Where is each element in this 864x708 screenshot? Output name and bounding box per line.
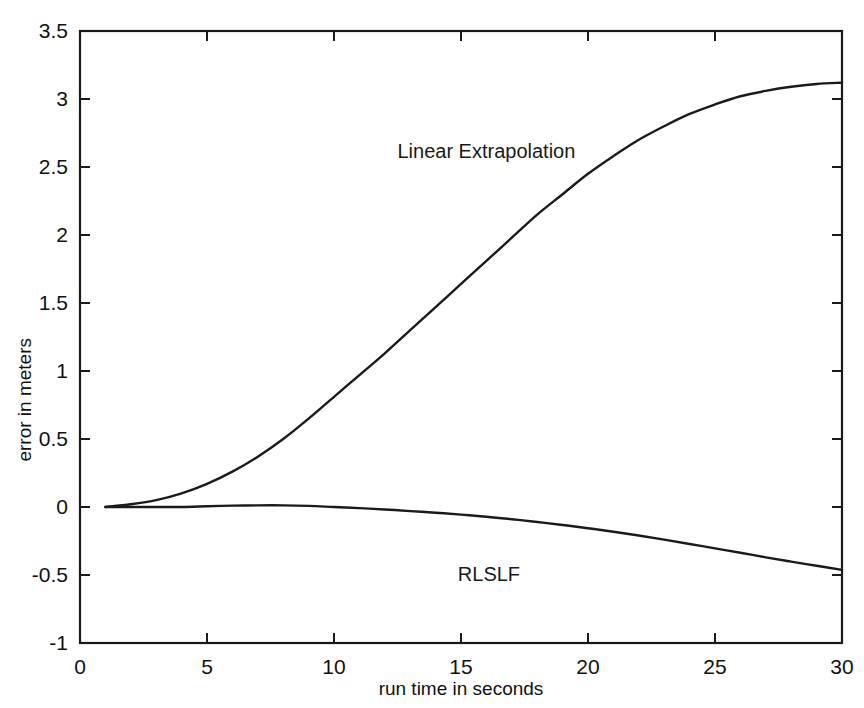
y-tick-label--0.5: -0.5 xyxy=(0,563,68,587)
y-tick-label-1.5: 1.5 xyxy=(0,291,68,315)
annotation-linear-extrapolation: Linear Extrapolation xyxy=(397,139,575,162)
plot-canvas xyxy=(0,0,864,708)
x-tick-label-5: 5 xyxy=(201,655,213,679)
y-tick-label-0: 0 xyxy=(0,495,68,519)
annotation-rlslf: RLSLF xyxy=(458,562,520,585)
x-tick-label-20: 20 xyxy=(576,655,599,679)
y-tick-label-2: 2 xyxy=(0,223,68,247)
chart-figure: 3.5 3 2.5 2 1.5 1 0.5 0 -0.5 -1 0 5 10 1… xyxy=(0,0,864,708)
x-axis-title: run time in seconds xyxy=(379,678,544,700)
y-tick-label--1: -1 xyxy=(0,631,68,655)
y-tick-label-3.5: 3.5 xyxy=(0,19,68,43)
x-tick-label-10: 10 xyxy=(322,655,345,679)
x-tick-label-30: 30 xyxy=(830,655,853,679)
x-tick-label-25: 25 xyxy=(703,655,726,679)
x-tick-label-0: 0 xyxy=(74,655,86,679)
y-axis-title: error in meters xyxy=(14,338,36,462)
y-tick-label-3: 3 xyxy=(0,87,68,111)
x-tick-label-15: 15 xyxy=(449,655,472,679)
y-tick-label-2.5: 2.5 xyxy=(0,155,68,179)
